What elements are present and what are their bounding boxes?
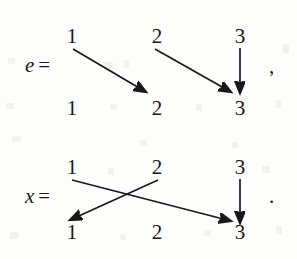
scan-speckle — [108, 168, 114, 175]
scan-speckle — [283, 44, 289, 53]
scan-speckle — [6, 103, 14, 109]
arrow-x-1-to-3 — [72, 180, 231, 221]
scan-speckle — [12, 136, 21, 142]
diagram-x-bottom-2: 2 — [148, 222, 166, 243]
scan-speckle — [276, 100, 281, 108]
diagram-e-equals: = — [34, 53, 50, 77]
diagram-x-top-2: 2 — [148, 157, 166, 178]
diagram-e-label: e= — [25, 55, 50, 76]
diagram-x-bottom-3: 3 — [231, 222, 249, 243]
diagram-e-trailing-comma: , — [269, 56, 274, 77]
scan-speckle — [124, 60, 129, 68]
scan-speckle — [10, 232, 19, 239]
diagram-e-bottom-3: 3 — [231, 98, 249, 119]
scan-speckle — [196, 104, 202, 111]
scan-speckle — [186, 64, 192, 70]
scan-speckle — [120, 234, 126, 240]
arrow-e-2-to-3 — [155, 49, 231, 92]
diagram-x-trailing-period: . — [269, 186, 274, 207]
arrow-e-1-to-2 — [73, 49, 146, 92]
diagram-x-equals: = — [34, 184, 50, 208]
figure-canvas: e= 1 2 3 1 2 3 , x= 1 2 3 1 2 3 . — [0, 0, 297, 259]
diagram-e-symbol: e — [25, 53, 34, 77]
diagram-e-bottom-2: 2 — [148, 98, 166, 119]
arrow-x-2-to-1 — [70, 180, 158, 220]
scan-speckle — [104, 62, 113, 69]
diagram-x-label: x= — [25, 186, 50, 207]
scan-speckle — [8, 58, 15, 64]
scan-speckle — [110, 104, 117, 110]
diagram-x-top-1: 1 — [63, 157, 81, 178]
scan-speckle — [140, 140, 147, 146]
scan-speckle — [276, 226, 282, 234]
diagram-e-top-3: 3 — [231, 26, 249, 47]
diagram-x-bottom-1: 1 — [63, 222, 81, 243]
scan-speckle — [262, 166, 270, 173]
diagram-e-bottom-1: 1 — [63, 98, 81, 119]
scan-speckle — [232, 142, 238, 148]
diagram-e-top-1: 1 — [63, 26, 81, 47]
diagram-e-top-2: 2 — [148, 26, 166, 47]
diagram-x-top-3: 3 — [231, 157, 249, 178]
diagram-x-symbol: x — [25, 184, 34, 208]
scan-speckle — [204, 230, 211, 236]
